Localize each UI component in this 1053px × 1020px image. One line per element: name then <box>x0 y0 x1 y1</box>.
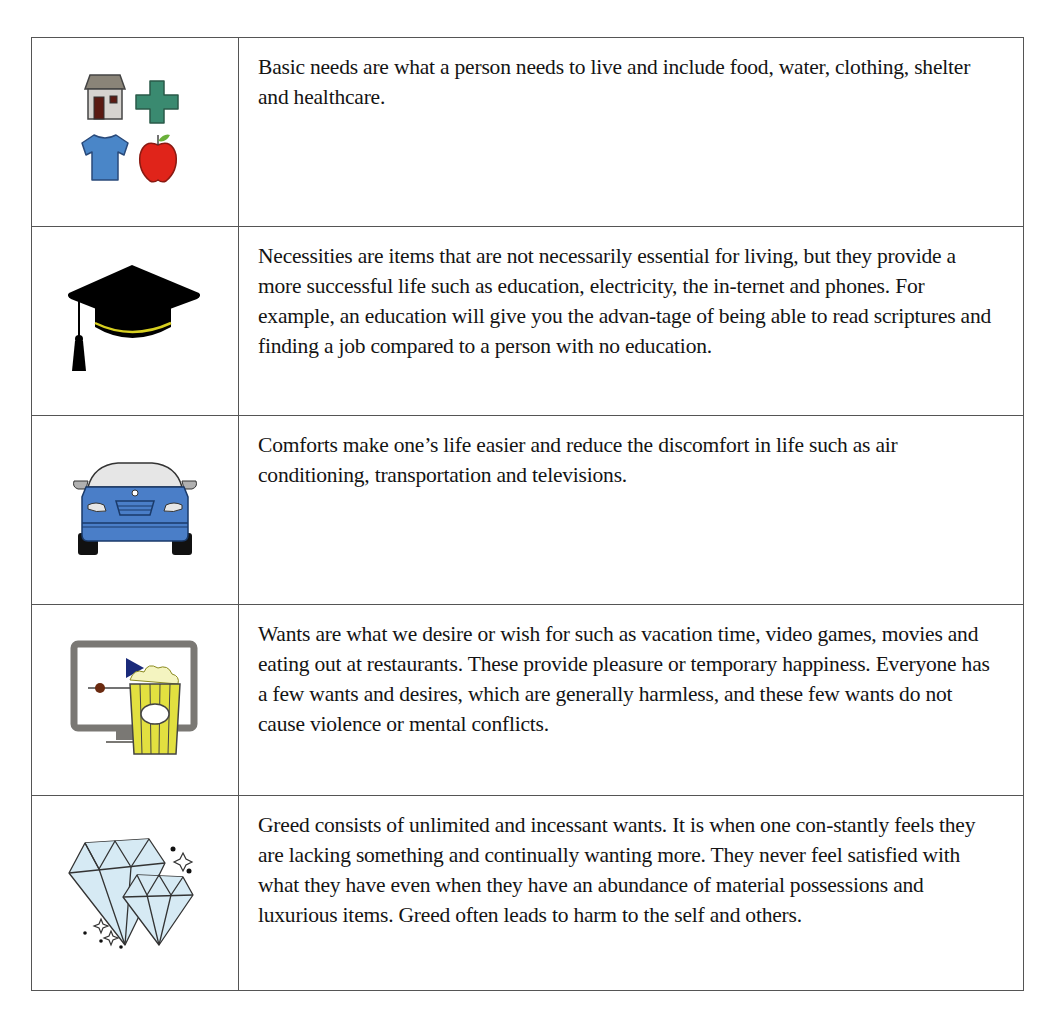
apple-icon <box>140 135 177 182</box>
car-icon <box>70 455 200 565</box>
row-text: Comforts make one’s life easier and redu… <box>239 416 1023 604</box>
row-text: Wants are what we desire or wish for suc… <box>239 605 1023 795</box>
icon-cell <box>32 227 239 415</box>
table-row-necessities: Necessities are items that are not neces… <box>32 226 1023 415</box>
medical-cross-icon <box>136 81 178 123</box>
table-row-basic-needs: Basic needs are what a person needs to l… <box>32 38 1023 226</box>
table-row-wants: Wants are what we desire or wish for suc… <box>32 604 1023 795</box>
diamonds-icon <box>65 833 205 953</box>
icon-cell <box>32 416 239 604</box>
tv-popcorn-icon <box>70 640 200 760</box>
table-row-comforts: Comforts make one’s life easier and redu… <box>32 415 1023 604</box>
row-text: Necessities are items that are not neces… <box>239 227 1023 415</box>
concepts-table: Basic needs are what a person needs to l… <box>31 37 1024 991</box>
row-text: Basic needs are what a person needs to l… <box>239 38 1023 226</box>
table-row-greed: Greed consists of unlimited and incessan… <box>32 795 1023 990</box>
row-text: Greed consists of unlimited and incessan… <box>239 796 1023 990</box>
basic-needs-icon <box>70 67 200 197</box>
popcorn-icon <box>130 666 180 754</box>
house-icon <box>85 75 125 119</box>
shirt-icon <box>82 135 128 180</box>
icon-cell <box>32 796 239 990</box>
icon-cell <box>32 38 239 226</box>
graduation-cap-icon <box>65 261 205 381</box>
icon-cell <box>32 605 239 795</box>
